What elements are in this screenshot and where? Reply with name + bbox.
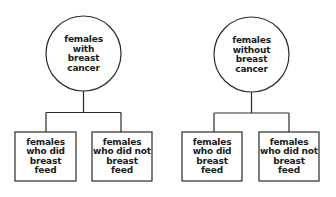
child-label-right-did-not: females who did not breast feed <box>259 133 319 180</box>
child-label-left-did-not: females who did not breast feed <box>92 133 152 180</box>
label-line: feed <box>111 166 133 176</box>
label-line: feed <box>35 166 57 176</box>
root-label-with-cancer: females with breast cancer <box>53 30 114 78</box>
root-label-without-cancer: females without breast cancer <box>221 31 282 79</box>
label-line: feed <box>201 166 223 176</box>
label-line: cancer <box>235 65 268 75</box>
label-line: cancer <box>67 64 100 74</box>
child-label-right-did: females who did breast feed <box>182 133 242 180</box>
label-line: feed <box>278 166 300 176</box>
child-label-left-did: females who did breast feed <box>15 133 76 180</box>
